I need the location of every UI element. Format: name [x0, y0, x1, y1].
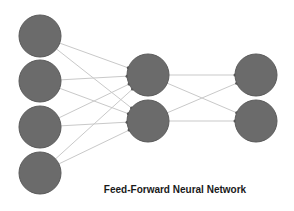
hidden-neuron [127, 100, 169, 142]
output-neuron [235, 100, 277, 142]
network-diagram [0, 0, 294, 211]
caption-text: Feed-Forward Neural Network [104, 184, 246, 195]
connection-line [59, 130, 129, 164]
input-neuron [19, 60, 61, 102]
hidden-neuron [127, 54, 169, 96]
input-neuron [19, 15, 61, 57]
neurons [19, 15, 277, 194]
connection-line [56, 89, 133, 159]
connection-line [59, 84, 129, 118]
input-neuron [19, 106, 61, 148]
connection-line [61, 76, 127, 80]
connection-line [60, 43, 128, 68]
output-neuron [235, 54, 277, 96]
diagram-caption: Feed-Forward Neural Network [0, 184, 294, 195]
